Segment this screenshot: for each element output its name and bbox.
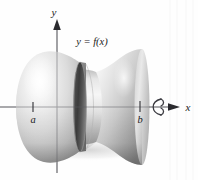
solid-of-revolution-figure: y x y = f(x) a b [0, 0, 198, 180]
x-axis-label: x [185, 101, 191, 113]
y-axis-arrowhead [53, 19, 61, 30]
right-bell-highlight [113, 58, 135, 98]
figure-canvas: y x y = f(x) a b [0, 0, 198, 180]
lower-bound-label: a [30, 114, 35, 125]
upper-bound-label: b [137, 114, 142, 125]
function-label: y = f(x) [75, 36, 108, 48]
scan-artifacts [170, 0, 193, 180]
y-axis-label: y [51, 6, 57, 18]
x-axis-arrowhead [168, 103, 180, 111]
left-lobe-highlight [23, 54, 57, 106]
